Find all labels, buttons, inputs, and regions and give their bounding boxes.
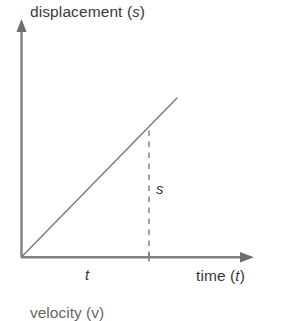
y-axis-label: displacement (s): [30, 4, 145, 20]
x-axis-label-paren-open: (: [226, 267, 236, 284]
y-axis-label-paren-open: (: [123, 3, 133, 20]
y-axis-symbol: s: [132, 3, 140, 20]
x-axis-arrowhead-icon: [240, 252, 254, 262]
time-interval-label: t: [85, 267, 89, 282]
y-axis-label-text: displacement: [30, 3, 123, 20]
x-axis-label-text: time: [196, 267, 226, 284]
y-axis-arrowhead-icon: [16, 19, 26, 32]
y-axis-label-paren-close: ): [140, 3, 145, 20]
x-axis-label-paren-close: ): [240, 267, 245, 284]
next-figure-label: velocity (v): [30, 305, 104, 321]
x-axis-label: time (t): [196, 268, 245, 284]
displacement-line: [22, 98, 178, 257]
displacement-segment-label: s: [156, 181, 164, 196]
